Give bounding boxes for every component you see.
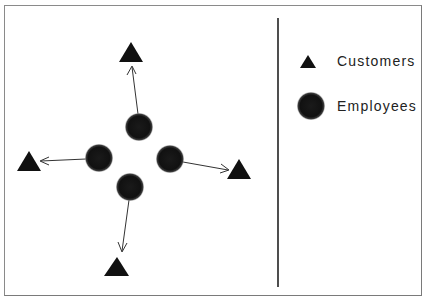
legend-label-employees: Employees <box>337 98 421 114</box>
customer-triangle-left <box>17 151 41 171</box>
arrow-bottom <box>118 200 129 252</box>
diagram-canvas <box>0 0 426 303</box>
employee-circle-bottom <box>116 173 144 201</box>
arrow-top <box>127 66 138 114</box>
arrows <box>40 66 229 252</box>
legend-circle-icon <box>297 92 325 120</box>
employee-circle-left <box>85 144 113 172</box>
customer-triangle-top <box>119 42 143 62</box>
employees <box>85 113 184 201</box>
legend-triangle-icon <box>300 55 316 68</box>
customer-triangle-right <box>227 159 251 179</box>
arrow-right <box>183 162 229 173</box>
customers <box>17 42 251 276</box>
legend-label-customers: Customers <box>337 53 415 69</box>
employee-circle-right <box>156 145 184 173</box>
customer-triangle-bottom <box>104 257 129 276</box>
employee-circle-top <box>125 113 153 141</box>
arrow-left <box>40 157 86 165</box>
